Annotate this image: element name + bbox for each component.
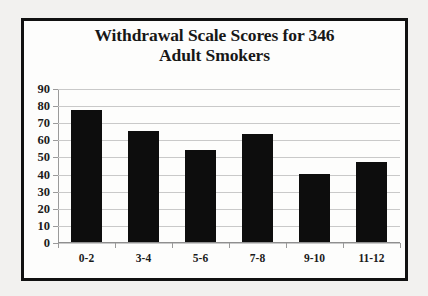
bar — [128, 131, 159, 242]
x-tick-mark — [400, 243, 401, 248]
gridline — [58, 106, 400, 107]
y-tick-mark — [53, 175, 58, 176]
bar — [356, 162, 387, 242]
y-axis-line — [58, 89, 59, 243]
gridline — [58, 209, 400, 210]
y-tick-label: 80 — [38, 99, 51, 114]
y-tick-label: 0 — [44, 236, 50, 251]
x-tick-label: 5-6 — [193, 252, 208, 264]
y-tick-mark — [53, 192, 58, 193]
chart-title-line-2: Adult Smokers — [24, 45, 405, 65]
x-tick-mark — [172, 243, 173, 248]
gridline — [58, 157, 400, 158]
gridline — [58, 140, 400, 141]
x-tick-mark — [229, 243, 230, 248]
chart-title-line-1: Withdrawal Scale Scores for 346 — [24, 25, 405, 45]
y-tick-label: 10 — [38, 218, 51, 233]
y-tick-label: 70 — [38, 116, 51, 131]
gridline — [58, 192, 400, 193]
chart-figure: Withdrawal Scale Scores for 346 Adult Sm… — [21, 18, 408, 281]
x-tick-label: 7-8 — [250, 252, 265, 264]
x-tick-mark — [115, 243, 116, 248]
y-tick-mark — [53, 226, 58, 227]
x-tick-mark — [286, 243, 287, 248]
y-tick-mark — [53, 209, 58, 210]
bar — [71, 110, 102, 242]
x-tick-mark — [58, 243, 59, 248]
bar — [242, 134, 273, 242]
chart-title: Withdrawal Scale Scores for 346 Adult Sm… — [24, 25, 405, 65]
x-tick-label: 9-10 — [304, 252, 325, 264]
y-tick-mark — [53, 157, 58, 158]
y-tick-label: 20 — [38, 201, 51, 216]
y-tick-mark — [53, 106, 58, 107]
y-tick-mark — [53, 123, 58, 124]
x-tick-mark — [343, 243, 344, 248]
y-tick-label: 90 — [38, 82, 51, 97]
bar — [299, 174, 330, 242]
y-tick-label: 30 — [38, 184, 51, 199]
y-tick-mark — [53, 140, 58, 141]
gridline — [58, 226, 400, 227]
plot-area: 0102030405060708090 0-23-45-67-89-1011-1… — [58, 89, 400, 243]
gridline — [58, 175, 400, 176]
x-tick-label: 11-12 — [358, 252, 384, 264]
bar — [185, 150, 216, 242]
y-tick-label: 40 — [38, 167, 51, 182]
y-tick-mark — [53, 89, 58, 90]
y-tick-label: 50 — [38, 150, 51, 165]
gridline — [58, 123, 400, 124]
gridline — [58, 89, 400, 90]
x-tick-label: 3-4 — [136, 252, 151, 264]
x-tick-label: 0-2 — [79, 252, 94, 264]
y-tick-label: 60 — [38, 133, 51, 148]
